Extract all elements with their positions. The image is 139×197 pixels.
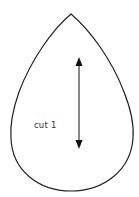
pattern-piece [0, 0, 139, 197]
cut-label: cut 1 [34, 120, 57, 130]
teardrop-outline [11, 14, 133, 191]
